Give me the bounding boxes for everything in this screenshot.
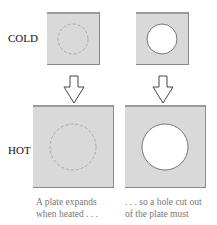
down-arrow-icon-right (151, 75, 175, 105)
dashed-circle-outline (47, 12, 100, 65)
hot-solid-plate (33, 105, 114, 188)
cold-solid-plate (47, 12, 100, 65)
caption-right: . . . so a hole cut out of the plate mus… (125, 196, 202, 220)
caption-left-line1: A plate expands (36, 196, 98, 208)
hot-label: HOT (8, 144, 31, 156)
caption-right-line1: . . . so a hole cut out (125, 196, 202, 208)
down-arrow-icon-left (62, 75, 86, 105)
hole-circle (136, 12, 189, 65)
cold-holed-plate (136, 12, 189, 65)
caption-left-line2: when heated . . . (36, 208, 98, 220)
hole-circle (125, 105, 206, 188)
cold-label: COLD (8, 32, 38, 44)
caption-left: A plate expands when heated . . . (36, 196, 98, 220)
caption-right-line2: of the plate must (125, 208, 202, 220)
dashed-circle-outline (33, 105, 114, 188)
hot-holed-plate (125, 105, 206, 188)
